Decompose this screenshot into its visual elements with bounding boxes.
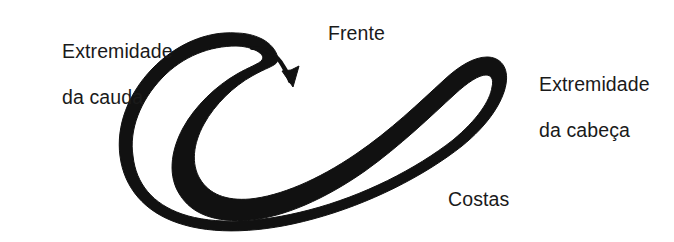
label-front: Frente: [328, 22, 385, 45]
label-head-extremity: Extremidade da cabeça: [517, 50, 650, 165]
label-tail-extremity-line1: Extremidade: [62, 40, 173, 62]
label-tail-extremity-line2: da cauda: [62, 86, 143, 108]
label-head-extremity-line2: da cabeça: [539, 119, 630, 141]
label-back: Costas: [448, 188, 509, 211]
label-head-extremity-line1: Extremidade: [539, 73, 650, 95]
label-tail-extremity: Extremidade da cauda: [40, 17, 173, 132]
figure-container: Extremidade da cauda Frente Extremidade …: [0, 0, 674, 242]
